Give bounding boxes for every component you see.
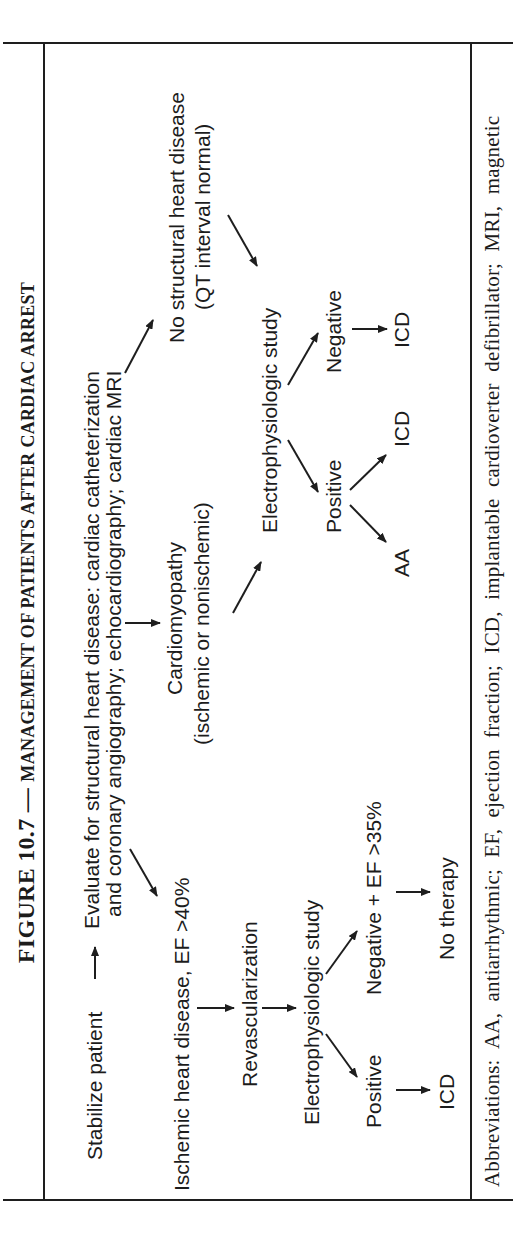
- figure-title-main: MANAGEMENT OF PATIENTS AFTER CARDIAC ARR…: [18, 282, 38, 782]
- node-cardiomyopathy: Cardiomyopathy: [163, 542, 187, 695]
- page-viewport: FIGURE 10.7 — MANAGEMENT OF PATIENTS AFT…: [0, 0, 513, 1247]
- frame-left-border: [3, 1199, 513, 1201]
- arrow-evaluate-to-no-structural: [125, 320, 153, 373]
- arrow-ep-middle-to-negative: [288, 333, 318, 385]
- abbreviations-text: Abbreviations: AA, antiarrhythmic; EF, e…: [480, 116, 504, 1187]
- frame-right-border: [3, 42, 513, 44]
- arrow-positive-to-icd-middle: [350, 455, 386, 490]
- node-icd-middle: ICD: [390, 411, 414, 447]
- node-ischemic-heart-disease: Ischemic heart disease, EF >40%: [170, 878, 194, 1191]
- node-ep-study-left: Electrophysiologic study: [300, 900, 324, 1125]
- node-positive-middle: Positive: [322, 459, 346, 533]
- node-icd-right: ICD: [390, 312, 414, 348]
- node-negative-middle: Negative: [322, 290, 346, 373]
- node-stabilize-patient: Stabilize patient: [83, 1012, 107, 1160]
- node-no-structural-heart-disease: No structural heart disease: [165, 92, 189, 343]
- node-positive-left: Positive: [362, 1054, 386, 1128]
- abbreviations-divider: [470, 42, 472, 1201]
- node-evaluate-line1: Evaluate for structural heart disease: c…: [80, 371, 104, 929]
- arrow-ep-left-to-positive: [326, 1034, 357, 1077]
- arrow-ep-middle-to-positive: [288, 440, 318, 492]
- arrow-positive-to-aa: [350, 505, 386, 542]
- node-qt-interval-normal: (QT interval normal): [191, 124, 215, 310]
- node-aa: AA: [390, 549, 414, 577]
- node-icd-left: ICD: [435, 1074, 459, 1110]
- arrow-ep-left-to-negative: [326, 931, 357, 974]
- figure-frame: FIGURE 10.7 — MANAGEMENT OF PATIENTS AFT…: [0, 0, 513, 1247]
- figure-title-prefix: FIGURE 10.7 —: [13, 782, 39, 964]
- figure-title: FIGURE 10.7 — MANAGEMENT OF PATIENTS AFT…: [14, 120, 40, 1125]
- node-revascularization: Revascularization: [238, 921, 262, 1087]
- title-divider: [43, 42, 45, 1201]
- node-negative-ef-left: Negative + EF >35%: [362, 801, 386, 995]
- arrow-cardiomyopathy-to-ep-study: [233, 562, 261, 613]
- node-cardiomyopathy-type: (ischemic or nonischemic): [190, 502, 214, 745]
- node-no-therapy: No therapy: [435, 857, 459, 960]
- arrow-qt-normal-to-ep-study: [228, 215, 257, 266]
- node-evaluate-line2: and coronary angiography; echocardiograp…: [102, 371, 126, 917]
- node-ep-study-middle: Electrophysiologic study: [258, 308, 282, 533]
- arrow-evaluate-to-ischemic: [130, 849, 157, 896]
